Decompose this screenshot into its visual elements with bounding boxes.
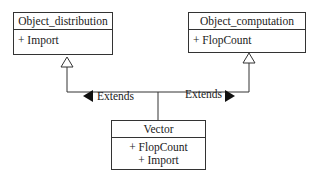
relation-label-right: Extends <box>185 88 222 101</box>
class-object-computation: Object_computation + FlopCount <box>188 12 306 53</box>
class-name: Object_computation <box>189 13 305 30</box>
class-member: + Import <box>14 30 112 51</box>
relation-label-left: Extends <box>97 90 134 103</box>
class-object-distribution: Object_distribution + Import <box>13 12 113 55</box>
class-vector: Vector + FlopCount + Import <box>111 120 206 170</box>
class-member: + FlopCount <box>116 141 201 154</box>
class-name: Vector <box>112 121 205 138</box>
generalization-arrow-right <box>243 53 255 63</box>
generalization-arrow-left <box>61 57 73 67</box>
class-name: Object_distribution <box>14 13 112 30</box>
class-member: + FlopCount <box>189 30 305 51</box>
class-member: + Import <box>116 154 201 167</box>
